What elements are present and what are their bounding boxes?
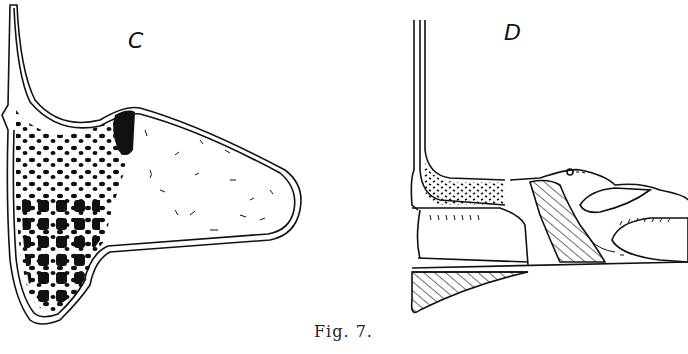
panel-label-d: D [504,20,521,45]
figure-caption: Fig. 7. [314,322,373,341]
figure-drawing [0,0,688,354]
panel-c-drawing [2,5,301,324]
panel-label-c: C [128,28,143,53]
panel-d-drawing [411,20,688,312]
